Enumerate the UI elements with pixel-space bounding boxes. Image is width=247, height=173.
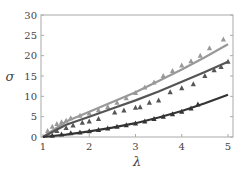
triangle-marker (121, 108, 126, 113)
triangle-marker (170, 68, 175, 73)
x-tick-label: 2 (86, 141, 92, 152)
x-tick-label: 1 (40, 141, 46, 152)
triangle-marker (147, 100, 152, 105)
y-tick-label: 30 (24, 10, 37, 21)
x-tick-label: 5 (225, 141, 231, 152)
y-tick-label: 10 (24, 91, 37, 102)
y-tick-label: 15 (24, 71, 37, 82)
triangle-marker (50, 124, 55, 129)
triangle-marker (168, 89, 173, 94)
triangle-marker (179, 85, 184, 90)
triangle-marker (112, 110, 117, 115)
series-group (43, 36, 231, 137)
triangle-marker (191, 81, 196, 86)
triangle-marker (138, 104, 143, 109)
triangle-marker (179, 62, 184, 67)
triangle-marker (221, 36, 226, 41)
triangle-marker (45, 128, 50, 133)
triangle-marker (96, 116, 101, 121)
triangle-marker (161, 73, 166, 78)
triangle-marker (156, 97, 161, 102)
x-tick-label: 4 (179, 141, 185, 152)
triangle-marker (54, 121, 59, 126)
y-tick-label: 20 (24, 50, 37, 61)
triangle-marker (59, 119, 64, 124)
y-axis-label: σ (6, 69, 16, 84)
y-tick-label: 0 (31, 132, 37, 143)
triangle-marker (198, 53, 203, 58)
x-tick-label: 3 (132, 141, 138, 152)
triangle-marker (207, 45, 212, 50)
y-axis: 051015202530 (24, 10, 233, 143)
y-tick-label: 5 (31, 111, 37, 122)
triangle-marker (188, 58, 193, 63)
x-axis-label: λ (132, 154, 141, 169)
fit-line-middle (43, 62, 228, 137)
y-tick-label: 25 (24, 30, 37, 41)
triangle-marker (133, 105, 138, 110)
triangle-marker (225, 59, 230, 64)
triangle-marker (87, 119, 92, 124)
chart: 051015202530 12345 λ σ (0, 0, 247, 173)
